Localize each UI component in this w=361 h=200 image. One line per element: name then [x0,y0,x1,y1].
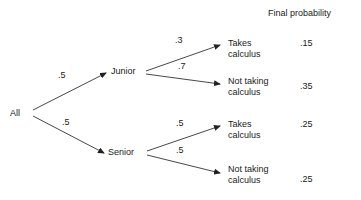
final-probability-header: Final probability [268,8,331,19]
edge-label-all-to-junior: .5 [58,70,66,81]
leaf-takes-calculus-senior-line1: Takes [228,119,252,130]
final-probability-takes-calculus-senior: .25 [300,119,313,130]
leaf-takes-calculus-junior-line1: Takes [228,38,252,49]
leaf-not-taking-calculus-senior-line2: calculus [228,175,261,186]
edge-junior-to-not-taking-calculus [146,74,220,84]
tree-edges [0,0,361,200]
leaf-not-taking-calculus-junior-line1: Not taking [228,76,269,87]
node-senior: Senior [108,147,134,158]
edge-label-junior-to-not-taking-calculus: .7 [178,61,186,72]
node-all: All [10,108,20,119]
leaf-not-taking-calculus-junior-line2: calculus [228,87,261,98]
leaf-takes-calculus-junior-line2: calculus [228,49,261,60]
edge-label-senior-to-not-taking-calculus: .5 [176,145,184,156]
edge-senior-to-not-taking-calculus [147,155,220,173]
edge-label-junior-to-takes-calculus: .3 [175,35,183,46]
edge-label-senior-to-takes-calculus: .5 [176,118,184,129]
final-probability-not-taking-calculus-junior: .35 [300,81,313,92]
edge-all-to-junior [33,73,106,110]
probability-tree-diagram: Final probability All Junior Senior .5 .… [0,0,361,200]
leaf-not-taking-calculus-senior-line1: Not taking [228,164,269,175]
node-junior: Junior [111,66,136,77]
final-probability-takes-calculus-junior: .15 [300,38,313,49]
edge-label-all-to-senior: .5 [62,117,70,128]
leaf-takes-calculus-senior-line2: calculus [228,130,261,141]
final-probability-not-taking-calculus-senior: .25 [300,174,313,185]
